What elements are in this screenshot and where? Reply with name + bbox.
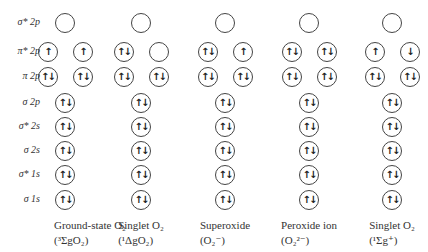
orbital-p2p_star-4-1: ↓ [400,42,420,62]
orbital-p2p_star-0-0: ↑ [38,42,58,62]
orbital-p2p-4-0: ↑↓ [365,67,385,87]
paired-electrons-icon: ↑↓ [386,170,399,180]
orbital-label-s1s: σ 1s [0,193,40,204]
orbital-s2s-2: ↑↓ [215,141,235,161]
orbital-s2p_star-1 [131,13,151,33]
orbital-p2p_star-0-1: ↑ [73,42,93,62]
paired-electrons-icon: ↑↓ [386,122,399,132]
orbital-s1s_star-2: ↑↓ [215,165,235,185]
orbital-s2s-1: ↑↓ [131,141,151,161]
orbital-p2p-0-0: ↑↓ [38,67,58,87]
orbital-p2p-1-0: ↑↓ [114,67,134,87]
paired-electrons-icon: ↑↓ [368,72,381,82]
paired-electrons-icon: ↑↓ [135,195,148,205]
paired-electrons-icon: ↑↓ [135,146,148,156]
paired-electrons-icon: ↑↓ [403,72,416,82]
paired-electrons-icon: ↑↓ [303,195,316,205]
paired-electrons-icon: ↑↓ [135,122,148,132]
species-term-2: (O₂⁻) [200,234,225,247]
paired-electrons-icon: ↑↓ [219,195,232,205]
orbital-s2s_star-2: ↑↓ [215,117,235,137]
orbital-s1s_star-0: ↑↓ [55,165,75,185]
orbital-p2p-0-1: ↑↓ [73,67,93,87]
species-name-4: Singlet O₂ [369,219,415,231]
orbital-label-s2s: σ 2s [0,144,40,155]
orbital-p2p_star-4-0: ↑ [365,42,385,62]
orbital-label-p2p: π 2p [0,70,40,81]
spin-up-electron-icon: ↑ [44,47,50,57]
orbital-s1s_star-4: ↑↓ [382,165,402,185]
orbital-s1s-2: ↑↓ [215,190,235,210]
paired-electrons-icon: ↑↓ [59,146,72,156]
orbital-label-p2p_star: π* 2p [0,45,40,56]
paired-electrons-icon: ↑↓ [152,72,165,82]
spin-up-electron-icon: ↑ [371,47,377,57]
spin-up-electron-icon: ↑ [239,47,245,57]
paired-electrons-icon: ↑↓ [135,170,148,180]
paired-electrons-icon: ↑↓ [59,195,72,205]
orbital-s2s-3: ↑↓ [299,141,319,161]
species-name-3: Peroxide ion [281,219,337,231]
orbital-s2p_star-0 [55,13,75,33]
species-name-1: Singlet O₂ [118,219,164,231]
paired-electrons-icon: ↑↓ [386,195,399,205]
orbital-s1s-0: ↑↓ [55,190,75,210]
orbital-s2s-4: ↑↓ [382,141,402,161]
paired-electrons-icon: ↑↓ [285,72,298,82]
orbital-s2p_star-3 [299,13,319,33]
paired-electrons-icon: ↑↓ [219,146,232,156]
orbital-p2p_star-2-0: ↑↓ [198,42,218,62]
paired-electrons-icon: ↑↓ [303,122,316,132]
paired-electrons-icon: ↑↓ [59,98,72,108]
paired-electrons-icon: ↑↓ [76,72,89,82]
species-name-0: Ground-state O₂ [54,219,126,231]
orbital-s2p_star-4 [382,13,402,33]
paired-electrons-icon: ↑↓ [135,98,148,108]
orbital-s1s-3: ↑↓ [299,190,319,210]
orbital-p2p_star-1-0: ↑↓ [114,42,134,62]
orbital-label-s1s_star: σ* 1s [0,168,40,179]
spin-up-electron-icon: ↑ [79,47,85,57]
orbital-p2p_star-1-1 [149,42,169,62]
paired-electrons-icon: ↑↓ [303,98,316,108]
paired-electrons-icon: ↑↓ [59,170,72,180]
species-term-4: (¹Σg⁺) [369,234,397,247]
orbital-p2p-2-0: ↑↓ [198,67,218,87]
orbital-label-s2s_star: σ* 2s [0,120,40,131]
paired-electrons-icon: ↑↓ [303,170,316,180]
orbital-p2p-3-0: ↑↓ [282,67,302,87]
paired-electrons-icon: ↑↓ [117,72,130,82]
orbital-s1s_star-1: ↑↓ [131,165,151,185]
orbital-s1s_star-3: ↑↓ [299,165,319,185]
orbital-s2p-0: ↑↓ [55,93,75,113]
orbital-s2s-0: ↑↓ [55,141,75,161]
paired-electrons-icon: ↑↓ [320,72,333,82]
orbital-s1s-4: ↑↓ [382,190,402,210]
orbital-s2p-1: ↑↓ [131,93,151,113]
orbital-p2p_star-2-1: ↑ [233,42,253,62]
paired-electrons-icon: ↑↓ [59,122,72,132]
paired-electrons-icon: ↑↓ [117,47,130,57]
orbital-p2p_star-3-0: ↑↓ [282,42,302,62]
species-name-2: Superoxide [200,219,250,231]
orbital-s2p-2: ↑↓ [215,93,235,113]
orbital-label-s2p_star: σ* 2p [0,16,40,27]
orbital-p2p-1-1: ↑↓ [149,67,169,87]
orbital-p2p-3-1: ↑↓ [317,67,337,87]
paired-electrons-icon: ↑↓ [201,72,214,82]
paired-electrons-icon: ↑↓ [386,98,399,108]
orbital-s2p_star-2 [215,13,235,33]
species-term-0: (³ΣgO₂) [54,234,88,246]
paired-electrons-icon: ↑↓ [201,47,214,57]
orbital-s2p-3: ↑↓ [299,93,319,113]
paired-electrons-icon: ↑↓ [219,98,232,108]
paired-electrons-icon: ↑↓ [219,170,232,180]
paired-electrons-icon: ↑↓ [41,72,54,82]
species-term-3: (O₂²⁻) [281,234,309,247]
paired-electrons-icon: ↑↓ [386,146,399,156]
paired-electrons-icon: ↑↓ [285,47,298,57]
orbital-p2p_star-3-1: ↑↓ [317,42,337,62]
orbital-s2s_star-1: ↑↓ [131,117,151,137]
orbital-s1s-1: ↑↓ [131,190,151,210]
orbital-p2p-4-1: ↑↓ [400,67,420,87]
